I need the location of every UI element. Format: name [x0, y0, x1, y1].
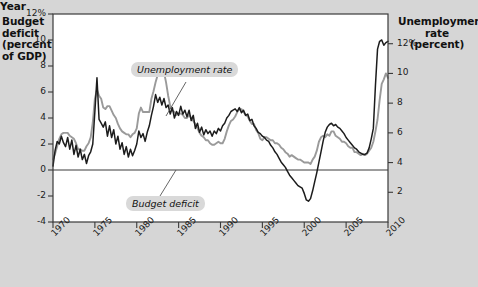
right-tick-label: 4: [397, 157, 431, 167]
unemployment-rate-callout: Unemployment rate: [131, 62, 238, 77]
left-tick-label: -2: [12, 190, 46, 200]
budget-deficit-callout: Budget deficit: [126, 196, 205, 211]
plot-background: [53, 14, 388, 222]
left-tick-label: 4: [12, 112, 46, 122]
left-tick-label: 10: [12, 34, 46, 44]
right-tick-label: 2: [397, 186, 431, 196]
left-tick-label: 2: [12, 138, 46, 148]
left-tick-label: 0: [12, 164, 46, 174]
right-tick-label: 6: [397, 127, 431, 137]
right-tick-label: 8: [397, 97, 431, 107]
left-tick-label: 8: [12, 60, 46, 70]
left-tick-label: -4: [12, 216, 46, 226]
left-tick-label: 6: [12, 86, 46, 96]
chart-figure: Budget deficit (percent of GDP) Unemploy…: [0, 0, 478, 287]
right-tick-label: 12%: [397, 38, 431, 48]
right-tick-label: 10: [397, 67, 431, 77]
left-tick-label: 12%: [12, 8, 46, 18]
